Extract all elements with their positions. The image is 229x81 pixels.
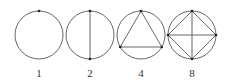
point xyxy=(161,46,164,49)
circle xyxy=(117,11,165,59)
point xyxy=(38,10,41,13)
point xyxy=(89,58,92,61)
point xyxy=(119,46,122,49)
point xyxy=(191,58,194,61)
figure-label: 8 xyxy=(189,67,195,79)
figure-label: 2 xyxy=(87,67,93,79)
point xyxy=(215,34,218,37)
point xyxy=(140,10,143,13)
figure-2 xyxy=(66,10,114,61)
circle-regions-diagram: 1 2 4 8 xyxy=(0,0,229,81)
figure-label: 4 xyxy=(138,67,144,79)
point xyxy=(191,10,194,13)
figure-1 xyxy=(15,10,63,59)
point xyxy=(89,10,92,13)
figure-label: 1 xyxy=(36,67,42,79)
figure-4 xyxy=(117,10,165,59)
figure-8 xyxy=(167,10,218,61)
circle xyxy=(15,11,63,59)
point xyxy=(167,34,170,37)
